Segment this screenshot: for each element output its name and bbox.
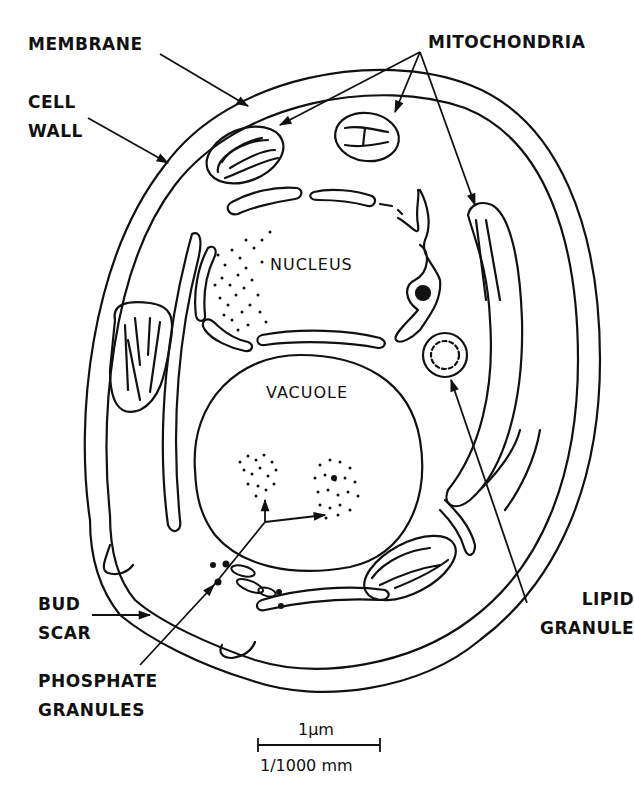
lipid-granule-leader bbox=[451, 380, 527, 603]
nucleolus-spot bbox=[416, 286, 430, 300]
mitochondria-leader bbox=[395, 52, 420, 112]
label-bud-scar: BUD SCAR bbox=[38, 590, 91, 648]
label-cell-wall: CELL WALL bbox=[28, 88, 83, 146]
label-vacuole: VACUOLE bbox=[266, 383, 348, 402]
vacuole-granules bbox=[239, 454, 360, 520]
label-mitochondria: MITOCHONDRIA bbox=[428, 28, 585, 57]
cell-wall-leader bbox=[88, 118, 168, 163]
label-phosphate-granules: PHOSPHATE GRANULES bbox=[38, 667, 158, 725]
scale-top-label: 1µm bbox=[298, 720, 334, 739]
label-cell-wall-line1: CELL bbox=[28, 88, 83, 117]
label-bud-scar-line1: BUD bbox=[38, 590, 91, 619]
label-phosphate-line2: GRANULES bbox=[38, 696, 158, 725]
label-lipid-granule: LIPID GRANULE bbox=[540, 585, 634, 643]
label-phosphate-line1: PHOSPHATE bbox=[38, 667, 158, 696]
scale-bottom-label: 1/1000 mm bbox=[260, 756, 353, 775]
lipid-granule bbox=[423, 333, 467, 377]
mitochondrion bbox=[332, 109, 402, 165]
mitochondria-leader bbox=[420, 52, 475, 205]
label-bud-scar-line2: SCAR bbox=[38, 619, 91, 648]
mitochondrion bbox=[447, 203, 523, 506]
mitochondrion bbox=[198, 116, 292, 194]
label-cell-wall-line2: WALL bbox=[28, 117, 83, 146]
label-lipid-line2: GRANULE bbox=[540, 614, 634, 643]
label-lipid-line1: LIPID bbox=[540, 585, 634, 614]
phosphate-granules-cluster bbox=[230, 563, 277, 598]
label-nucleus: NUCLEUS bbox=[270, 255, 353, 274]
label-membrane: MEMBRANE bbox=[28, 30, 143, 59]
phosphate-leader bbox=[140, 585, 214, 665]
membrane-leader bbox=[160, 54, 248, 106]
mitochondria-leader bbox=[280, 52, 420, 125]
nucleus-chromatin bbox=[214, 231, 272, 332]
